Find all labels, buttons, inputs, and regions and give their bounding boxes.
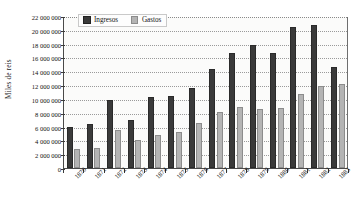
y-axis-tick-mark	[61, 100, 65, 101]
bar-ingresos	[209, 69, 215, 168]
bar-group	[125, 17, 145, 168]
legend-label: Ingresos	[94, 16, 118, 24]
bar-ingresos	[290, 27, 296, 168]
bar-group	[268, 17, 288, 168]
bar-group	[166, 17, 186, 168]
bar-ingresos	[189, 88, 195, 168]
y-axis-tick-label: 6 000 000	[17, 124, 61, 131]
y-axis-tick-label: 0	[17, 166, 61, 173]
bar-chart: Miles de reis 22 000 00020 000 00018 000…	[0, 0, 359, 205]
y-axis-tick-label: 2 000 000	[17, 152, 61, 159]
y-axis-tick-label: 22 000 000	[17, 14, 61, 21]
y-axis-tick-mark	[61, 155, 65, 156]
bar-group	[308, 17, 328, 168]
y-axis-tick-labels: 22 000 00020 000 00018 000 00016 000 000…	[17, 17, 61, 169]
bar-group	[145, 17, 165, 168]
bar-groups	[64, 17, 347, 168]
y-axis-tick-mark	[61, 58, 65, 59]
bar-group	[84, 17, 104, 168]
y-axis-tick-mark	[61, 45, 65, 46]
bar-ingresos	[87, 124, 93, 168]
y-axis-tick-mark	[61, 128, 65, 129]
y-axis-tick-label: 14 000 000	[17, 69, 61, 76]
y-axis-tick-label: 4 000 000	[17, 138, 61, 145]
bar-ingresos	[67, 127, 73, 168]
y-axis-tick-label: 12 000 000	[17, 83, 61, 90]
bar-ingresos	[229, 53, 235, 168]
bar-ingresos	[168, 96, 174, 168]
bar-group	[227, 17, 247, 168]
y-axis-tick-label: 20 000 000	[17, 27, 61, 34]
bar-group	[64, 17, 84, 168]
bar-ingresos	[128, 120, 134, 168]
y-axis-tick-label: 18 000 000	[17, 41, 61, 48]
bar-ingresos	[331, 67, 337, 168]
y-axis-tick-mark	[61, 114, 65, 115]
y-axis-title: Miles de reis	[5, 39, 13, 119]
bar-group	[329, 17, 349, 168]
y-axis-tick-mark	[61, 141, 65, 142]
bar-gastos	[196, 123, 202, 168]
x-axis-tick-labels: 1870187118721873187418751876187718781879…	[63, 172, 348, 205]
y-axis-tick-mark	[61, 31, 65, 32]
bar-ingresos	[148, 97, 154, 169]
bar-ingresos	[250, 45, 256, 168]
plot-area	[63, 17, 348, 169]
bar-group	[186, 17, 206, 168]
bar-gastos	[257, 109, 263, 168]
y-axis-tick-mark	[61, 86, 65, 87]
bar-gastos	[278, 108, 284, 168]
bar-gastos	[298, 94, 304, 168]
bar-group	[207, 17, 227, 168]
chart-legend: IngresosGastos	[78, 14, 167, 27]
bar-group	[105, 17, 125, 168]
legend-swatch-icon	[131, 16, 139, 24]
bar-gastos	[217, 112, 223, 168]
bar-gastos	[94, 148, 100, 168]
bar-gastos	[176, 132, 182, 168]
y-axis-tick-label: 10 000 000	[17, 96, 61, 103]
bar-group	[247, 17, 267, 168]
bar-gastos	[339, 84, 345, 168]
bar-group	[288, 17, 308, 168]
bar-gastos	[74, 149, 80, 168]
legend-item: Ingresos	[83, 16, 118, 24]
y-axis-tick-label: 8 000 000	[17, 110, 61, 117]
legend-swatch-icon	[83, 16, 91, 24]
bar-ingresos	[270, 53, 276, 168]
bar-gastos	[318, 86, 324, 168]
y-axis-tick-mark	[61, 17, 65, 18]
bar-gastos	[155, 135, 161, 168]
bar-ingresos	[107, 100, 113, 168]
bar-gastos	[237, 107, 243, 168]
y-axis-tick-label: 16 000 000	[17, 55, 61, 62]
legend-label: Gastos	[142, 16, 161, 24]
bar-ingresos	[311, 25, 317, 168]
legend-item: Gastos	[131, 16, 161, 24]
bar-gastos	[115, 130, 121, 168]
y-axis-tick-mark	[61, 72, 65, 73]
bar-gastos	[135, 140, 141, 168]
